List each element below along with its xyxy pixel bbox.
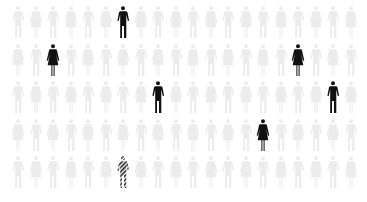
faded-person-icon: [203, 118, 219, 152]
faded-person-icon: [150, 155, 166, 189]
faded-person-icon: [98, 43, 114, 77]
faded-person-icon: [63, 118, 79, 152]
faded-person-icon: [238, 5, 254, 39]
faded-person-icon: [133, 5, 149, 39]
faded-person-icon: [185, 43, 201, 77]
faded-person-icon: [115, 43, 131, 77]
faded-person-icon: [10, 118, 26, 152]
hatched-man-icon: [115, 155, 131, 189]
faded-person-icon: [98, 118, 114, 152]
faded-person-icon: [308, 80, 324, 114]
faded-person-icon: [238, 80, 254, 114]
faded-person-icon: [273, 43, 289, 77]
faded-person-icon: [63, 43, 79, 77]
faded-person-icon: [45, 5, 61, 39]
faded-person-icon: [238, 118, 254, 152]
faded-person-icon: [255, 80, 271, 114]
pictogram-grid: [0, 0, 367, 202]
faded-person-icon: [28, 118, 44, 152]
faded-person-icon: [325, 118, 341, 152]
faded-person-icon: [28, 155, 44, 189]
faded-person-icon: [308, 118, 324, 152]
faded-person-icon: [185, 155, 201, 189]
faded-person-icon: [220, 80, 236, 114]
faded-person-icon: [98, 5, 114, 39]
faded-person-icon: [45, 80, 61, 114]
faded-person-icon: [63, 155, 79, 189]
faded-person-icon: [308, 43, 324, 77]
faded-person-icon: [28, 5, 44, 39]
faded-person-icon: [150, 118, 166, 152]
faded-person-icon: [168, 118, 184, 152]
faded-person-icon: [238, 43, 254, 77]
faded-person-icon: [80, 43, 96, 77]
faded-person-icon: [63, 80, 79, 114]
faded-person-icon: [150, 5, 166, 39]
highlighted-man-icon: [150, 80, 166, 114]
faded-person-icon: [168, 5, 184, 39]
faded-person-icon: [10, 155, 26, 189]
faded-person-icon: [325, 5, 341, 39]
faded-person-icon: [28, 43, 44, 77]
faded-person-icon: [325, 155, 341, 189]
faded-person-icon: [203, 43, 219, 77]
faded-person-icon: [220, 5, 236, 39]
faded-person-icon: [343, 118, 359, 152]
faded-person-icon: [115, 80, 131, 114]
faded-person-icon: [80, 5, 96, 39]
faded-person-icon: [10, 43, 26, 77]
faded-person-icon: [203, 5, 219, 39]
faded-person-icon: [185, 5, 201, 39]
faded-person-icon: [255, 43, 271, 77]
faded-person-icon: [290, 80, 306, 114]
highlighted-woman-icon: [290, 43, 306, 77]
faded-person-icon: [203, 80, 219, 114]
faded-person-icon: [168, 155, 184, 189]
faded-person-icon: [98, 80, 114, 114]
faded-person-icon: [185, 80, 201, 114]
faded-person-icon: [220, 43, 236, 77]
highlighted-woman-icon: [45, 43, 61, 77]
faded-person-icon: [343, 5, 359, 39]
faded-person-icon: [45, 118, 61, 152]
faded-person-icon: [273, 118, 289, 152]
highlighted-man-icon: [115, 5, 131, 39]
faded-person-icon: [203, 155, 219, 189]
faded-person-icon: [290, 118, 306, 152]
faded-person-icon: [273, 80, 289, 114]
faded-person-icon: [185, 118, 201, 152]
faded-person-icon: [80, 80, 96, 114]
faded-person-icon: [273, 5, 289, 39]
faded-person-icon: [115, 118, 131, 152]
faded-person-icon: [133, 155, 149, 189]
faded-person-icon: [133, 118, 149, 152]
faded-person-icon: [80, 155, 96, 189]
faded-person-icon: [343, 80, 359, 114]
faded-person-icon: [290, 5, 306, 39]
faded-person-icon: [325, 43, 341, 77]
faded-person-icon: [150, 43, 166, 77]
faded-person-icon: [220, 155, 236, 189]
faded-person-icon: [168, 80, 184, 114]
faded-person-icon: [238, 155, 254, 189]
faded-person-icon: [133, 43, 149, 77]
faded-person-icon: [343, 155, 359, 189]
faded-person-icon: [10, 5, 26, 39]
faded-person-icon: [45, 155, 61, 189]
faded-person-icon: [343, 43, 359, 77]
highlighted-man-icon: [325, 80, 341, 114]
faded-person-icon: [220, 118, 236, 152]
faded-person-icon: [168, 43, 184, 77]
faded-person-icon: [308, 155, 324, 189]
faded-person-icon: [98, 155, 114, 189]
faded-person-icon: [290, 155, 306, 189]
faded-person-icon: [308, 5, 324, 39]
faded-person-icon: [255, 155, 271, 189]
faded-person-icon: [80, 118, 96, 152]
faded-person-icon: [63, 5, 79, 39]
highlighted-woman-icon: [255, 118, 271, 152]
faded-person-icon: [28, 80, 44, 114]
faded-person-icon: [273, 155, 289, 189]
faded-person-icon: [10, 80, 26, 114]
faded-person-icon: [255, 5, 271, 39]
